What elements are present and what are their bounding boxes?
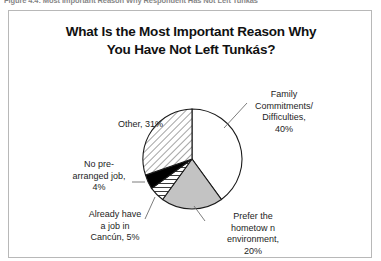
pie-label-other: Other, 31% (79, 119, 163, 131)
pie-label-no-prearranged-job: No pre- arranged job, 4% (49, 159, 149, 194)
pie-label-family-commitments: Family Commitments/ Difficulties, 40% (241, 89, 327, 135)
pie-label-prefer-hometown: Prefer the hometow n environment, 20% (205, 211, 301, 257)
pie-label-job-in-cancun: Already have a job in Cancún, 5% (65, 209, 165, 244)
chart-frame: What Is the Most Important Reason Why Yo… (8, 10, 372, 258)
figure-caption: Figure 4.4: Most Important Reason Why Re… (4, 0, 379, 5)
